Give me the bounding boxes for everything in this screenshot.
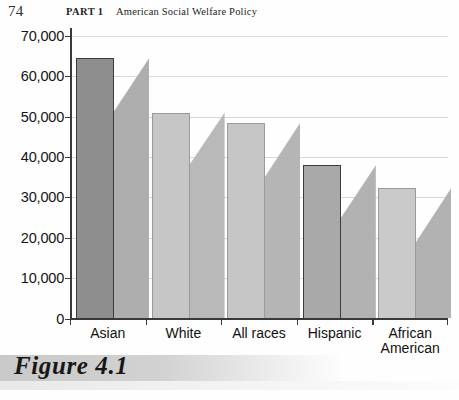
page-number: 74 [8, 3, 24, 20]
y-axis-tick-label: 10,000 [2, 270, 64, 286]
x-axis-tick-mark [70, 320, 71, 325]
x-axis-tick-mark [372, 320, 373, 325]
y-axis-tick-label: 0 [2, 311, 64, 327]
bar-hispanic [303, 165, 341, 318]
x-axis-line [70, 318, 448, 320]
bar-depth-shadow [113, 58, 149, 318]
figure-caption: Figure 4.1 [14, 352, 128, 380]
book-title: American Social Welfare Policy [116, 6, 257, 17]
bar-african-american [378, 188, 416, 319]
running-head: 74 PART 1 American Social Welfare Policy [0, 3, 459, 23]
y-axis-tick-label: 30,000 [2, 189, 64, 205]
bar-depth-shadow [415, 188, 451, 319]
y-axis-tick-label: 40,000 [2, 149, 64, 165]
y-axis-tick-label: 20,000 [2, 230, 64, 246]
caption-band-lower [0, 381, 459, 390]
gridline [70, 36, 448, 37]
x-axis-tick-mark [221, 320, 222, 325]
bar-depth-shadow [264, 123, 300, 319]
bar-white [152, 113, 190, 319]
bar-depth-shadow [340, 165, 376, 318]
y-axis-line [70, 28, 72, 320]
bar-asian [76, 58, 114, 318]
y-axis-tick-label: 50,000 [2, 109, 64, 125]
gridline [70, 76, 448, 77]
y-axis-tick-label: 70,000 [2, 28, 64, 44]
part-label: PART 1 [66, 6, 104, 17]
x-axis-tick-mark [297, 320, 298, 325]
plot-area [70, 28, 448, 320]
bar-all-races [227, 123, 265, 319]
bar-depth-shadow [189, 113, 225, 319]
textbook-page: 74 PART 1 American Social Welfare Policy… [0, 0, 459, 400]
x-axis-tick-mark [146, 320, 147, 325]
y-axis-tick-label: 60,000 [2, 68, 64, 84]
x-axis-label-african-american: African American [364, 326, 456, 356]
bar-chart: 010,00020,00030,00040,00050,00060,00070,… [0, 28, 459, 328]
x-axis-tick-mark [447, 320, 448, 325]
